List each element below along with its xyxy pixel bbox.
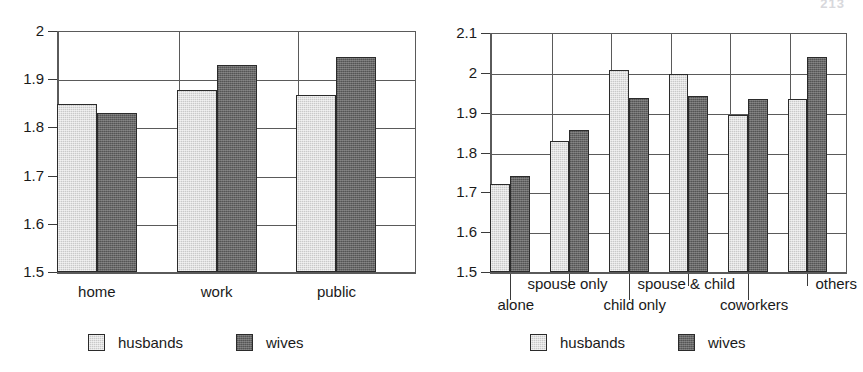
y-tick-label: 1.5 xyxy=(456,264,477,279)
x-axis-label-home: home xyxy=(78,284,116,299)
legend-label-husbands: husbands xyxy=(118,335,183,350)
bar-husbands-work xyxy=(177,90,217,272)
y-tick-mark xyxy=(481,33,490,34)
x-tick-mark xyxy=(807,274,808,286)
y-tick-mark xyxy=(48,176,57,177)
y-tick-mark xyxy=(48,79,57,80)
y-tick-mark xyxy=(481,153,490,154)
bar-wives-public xyxy=(336,57,376,272)
y-tick-label: 1.9 xyxy=(23,71,44,86)
bar-husbands-child-only xyxy=(609,70,629,272)
bar-wives-work xyxy=(217,65,257,272)
y-tick-mark xyxy=(481,272,490,273)
y-tick-mark xyxy=(48,272,57,273)
bar-husbands-spouse-child xyxy=(669,74,689,272)
bar-wives-spouse-child xyxy=(688,96,708,272)
y-tick-label: 1.8 xyxy=(23,119,44,134)
bar-wives-child-only xyxy=(629,98,649,272)
bar-wives-spouse-only xyxy=(569,130,589,272)
y-tick-mark xyxy=(48,127,57,128)
figure-page: 213 1.51.61.71.81.92homeworkpublichusban… xyxy=(0,0,863,372)
y-tick-label: 2 xyxy=(469,65,477,80)
x-axis-line xyxy=(57,272,416,274)
y-tick-mark xyxy=(48,31,57,32)
legend-right: husbandswives xyxy=(432,334,863,354)
y-tick-mark xyxy=(481,73,490,74)
legend-item-husbands[interactable]: husbands xyxy=(88,334,183,351)
bar-husbands-coworkers xyxy=(728,115,748,272)
x-axis-label-coworkers: coworkers xyxy=(720,297,788,312)
legend-label-wives: wives xyxy=(708,335,746,350)
y-tick-label: 1.6 xyxy=(23,216,44,231)
y-tick-label: 1.6 xyxy=(456,224,477,239)
bar-wives-home xyxy=(97,113,137,272)
legend-swatch-wives xyxy=(678,334,695,351)
bar-wives-alone xyxy=(510,176,530,272)
bar-husbands-others xyxy=(788,99,808,272)
legend-label-husbands: husbands xyxy=(560,335,625,350)
legend-swatch-wives xyxy=(236,334,253,351)
bar-husbands-spouse-only xyxy=(550,141,570,272)
y-tick-label: 1.5 xyxy=(23,264,44,279)
legend-swatch-husbands xyxy=(530,334,547,351)
legend-item-wives[interactable]: wives xyxy=(678,334,746,351)
bar-wives-coworkers xyxy=(748,99,768,272)
x-axis-line xyxy=(490,272,847,274)
y-tick-label: 1.8 xyxy=(456,145,477,160)
x-axis-label-spouse-child: spouse & child xyxy=(637,276,735,291)
bar-wives-others xyxy=(807,57,827,272)
x-axis-label-spouse-only: spouse only xyxy=(527,276,607,291)
y-tick-label: 2 xyxy=(36,23,44,38)
bar-husbands-public xyxy=(296,95,336,272)
y-tick-label: 2.1 xyxy=(456,25,477,40)
legend-item-husbands[interactable]: husbands xyxy=(530,334,625,351)
y-tick-label: 1.7 xyxy=(23,168,44,183)
bar-husbands-home xyxy=(57,104,97,272)
x-axis-label-alone: alone xyxy=(497,297,534,312)
y-tick-mark xyxy=(481,232,490,233)
legend-item-wives[interactable]: wives xyxy=(236,334,304,351)
x-axis-label-public: public xyxy=(317,284,356,299)
legend-left: husbandswives xyxy=(0,334,432,354)
x-axis-label-child-only: child only xyxy=(603,297,666,312)
legend-label-wives: wives xyxy=(266,335,304,350)
y-tick-label: 1.7 xyxy=(456,184,477,199)
chart-left: 1.51.61.71.81.92homeworkpublichusbandswi… xyxy=(0,0,432,372)
bar-husbands-alone xyxy=(490,184,510,272)
legend-swatch-husbands xyxy=(88,334,105,351)
x-axis-label-work: work xyxy=(201,284,233,299)
y-tick-mark xyxy=(481,113,490,114)
y-tick-mark xyxy=(481,192,490,193)
x-axis-label-others: others xyxy=(815,276,857,291)
y-tick-label: 1.9 xyxy=(456,105,477,120)
y-tick-mark xyxy=(48,224,57,225)
chart-right: 1.51.61.71.81.922.1alonespouse onlychild… xyxy=(432,0,863,372)
